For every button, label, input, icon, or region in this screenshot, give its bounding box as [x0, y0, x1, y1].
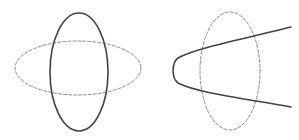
- geometry-figure: [0, 0, 299, 140]
- figure-background: [0, 0, 299, 140]
